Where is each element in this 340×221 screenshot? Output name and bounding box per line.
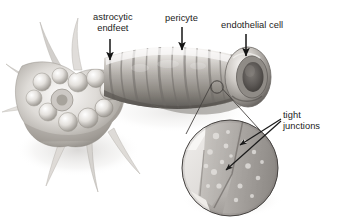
label-astrocytic-endfeet-line2: endfeet xyxy=(93,23,133,34)
endothelial-cell xyxy=(225,47,271,107)
blood-brain-barrier-figure: astrocytic endfeet pericyte endothelial … xyxy=(0,0,340,221)
label-tight-junctions-line2: junctions xyxy=(283,121,320,132)
label-astrocytic-endfeet: astrocytic endfeet xyxy=(93,12,133,33)
label-endothelial-cell: endothelial cell xyxy=(221,20,283,31)
magnifier-inset xyxy=(182,120,278,216)
label-pericyte: pericyte xyxy=(165,13,198,24)
label-tight-junctions-line1: tight xyxy=(283,110,320,121)
label-tight-junctions: tight junctions xyxy=(283,110,320,131)
label-astrocytic-endfeet-line1: astrocytic xyxy=(93,12,133,23)
